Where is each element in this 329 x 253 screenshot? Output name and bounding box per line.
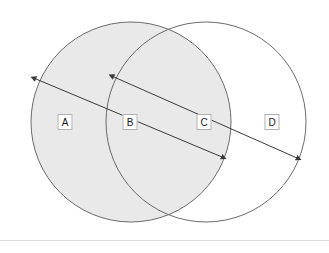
footer-divider [0,240,329,241]
region-label-c: C [197,114,212,130]
region-label-b: B [123,114,138,130]
venn-diagram-svg [0,0,329,253]
region-label-d: D [265,114,280,130]
diagram-canvas: A B C D [0,0,329,253]
region-label-a: A [58,114,73,130]
